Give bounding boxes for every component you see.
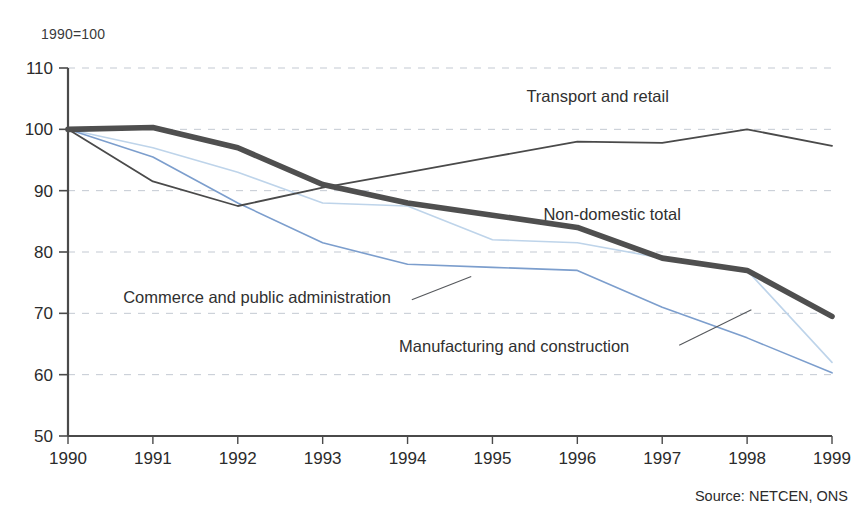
gridlines-group (68, 68, 832, 375)
y-tick-label-110: 110 (26, 59, 53, 78)
x-tick-label-1992: 1992 (219, 449, 257, 468)
y-tick-label-90: 90 (34, 182, 53, 201)
series-label-commerce-and-public-administration: Commerce and public administration (123, 288, 391, 306)
line-chart-canvas: 5060708090100110 19901991199219931994199… (0, 0, 866, 518)
y-tick-group: 5060708090100110 (25, 59, 68, 446)
chart-figure: 1990=100 5060708090100110 19901991199219… (0, 0, 866, 518)
y-tick-label-50: 50 (34, 427, 53, 446)
series-label-manufacturing-and-construction: Manufacturing and construction (399, 337, 629, 355)
x-tick-label-1998: 1998 (728, 449, 766, 468)
y-tick-label-70: 70 (34, 304, 53, 323)
series-label-non-domestic-total: Non-domestic total (543, 205, 681, 223)
x-tick-group: 1990199119921993199419951996199719981999 (49, 436, 851, 468)
x-tick-label-1991: 1991 (134, 449, 172, 468)
y-tick-label-80: 80 (34, 243, 53, 262)
series-paths-group (68, 127, 832, 372)
leader-manufacturing (679, 310, 751, 346)
x-tick-label-1993: 1993 (304, 449, 342, 468)
x-tick-label-1994: 1994 (389, 449, 427, 468)
x-tick-label-1990: 1990 (49, 449, 87, 468)
x-tick-label-1997: 1997 (643, 449, 681, 468)
y-tick-label-60: 60 (34, 366, 53, 385)
leader-commerce (412, 277, 471, 300)
y-tick-label-100: 100 (25, 120, 53, 139)
series-labels-group: Transport and retailNon-domestic totalCo… (123, 87, 681, 355)
series-label-transport-and-retail: Transport and retail (526, 87, 668, 105)
leader-lines-group (412, 277, 752, 346)
series-line-transport-and-retail (68, 129, 832, 206)
x-tick-label-1996: 1996 (558, 449, 596, 468)
x-tick-label-1995: 1995 (474, 449, 512, 468)
source-note: Source: NETCEN, ONS (695, 488, 848, 504)
x-tick-label-1999: 1999 (813, 449, 851, 468)
